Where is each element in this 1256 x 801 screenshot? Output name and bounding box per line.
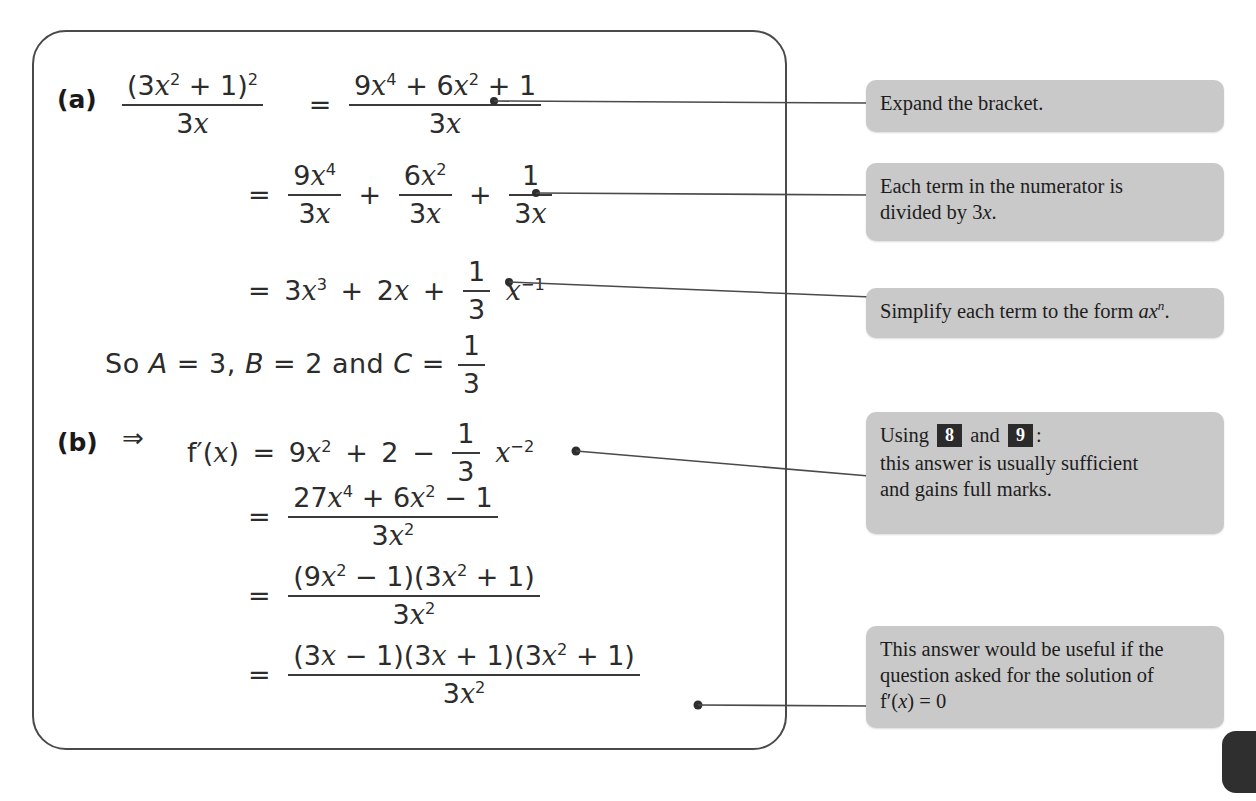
fraction-denominator: 3x bbox=[171, 109, 213, 139]
equals-sign: = bbox=[243, 659, 276, 690]
term-2x: 2x bbox=[377, 275, 409, 306]
callout-using-rules: Using 8 and 9: this answer is usually su… bbox=[866, 412, 1224, 534]
part-b-label: (b) bbox=[57, 428, 98, 457]
callout-using-label: Using bbox=[880, 424, 934, 446]
fraction-bar bbox=[399, 194, 452, 196]
callout-solution-useful: This answer would be useful if the quest… bbox=[866, 626, 1224, 728]
fraction-a2-term1: 9x4 3x bbox=[288, 161, 341, 229]
fraction-bar bbox=[288, 194, 341, 196]
callout-text: Expand the bracket. bbox=[880, 92, 1043, 114]
fraction-b2: 27x4 + 6x2 − 1 3x2 bbox=[288, 483, 497, 551]
part-a-label: (a) bbox=[57, 85, 97, 114]
fraction-denominator: 3 bbox=[458, 369, 485, 399]
fraction-bar bbox=[452, 452, 479, 454]
connector-line bbox=[536, 193, 870, 195]
callout-line-1: Each term in the numerator is bbox=[880, 174, 1210, 200]
callout-text-post: . bbox=[1164, 300, 1169, 322]
connector-line bbox=[698, 705, 871, 706]
equation-a1: (3x2 + 1)2 3x = 9x4 + 6x2 + 1 3x bbox=[118, 72, 545, 140]
function-f-prime: f′(x) bbox=[187, 437, 239, 468]
variable-x: x bbox=[1149, 300, 1158, 322]
fraction-numerator: 1 bbox=[452, 419, 479, 449]
fraction-b4: (3x − 1)(3x + 1)(3x2 + 1) 3x2 bbox=[288, 641, 640, 709]
equation-b1: f′(x) = 9x2 + 2 − 1 3 x−2 bbox=[187, 420, 534, 488]
equals-sign: = bbox=[304, 89, 337, 120]
function-f: f bbox=[880, 690, 887, 712]
plus-sign: + bbox=[336, 275, 369, 306]
connector-using bbox=[571, 444, 871, 480]
callout-line-1: Using 8 and 9: bbox=[880, 423, 1210, 449]
callout-text-pre: Simplify each term to the form bbox=[880, 300, 1138, 322]
fraction-bar bbox=[288, 674, 640, 676]
minus-sign: − bbox=[407, 437, 440, 468]
conclusion-a: So A = 3, B = 2 and C = 1 3 bbox=[105, 332, 489, 399]
connector-solution bbox=[693, 697, 873, 717]
fraction-bar bbox=[122, 104, 263, 106]
rule-badge-9[interactable]: 9 bbox=[1008, 424, 1033, 447]
fraction-denominator: 3x2 bbox=[367, 521, 420, 551]
equation-b2: = 27x4 + 6x2 − 1 3x2 bbox=[243, 484, 502, 552]
fraction-numerator: 1 bbox=[463, 257, 490, 287]
variable-x: x bbox=[983, 201, 992, 223]
equals-sign: = bbox=[248, 437, 281, 468]
plus-sign: + bbox=[464, 179, 497, 210]
equation-b4: = (3x − 1)(3x + 1)(3x2 + 1) 3x2 bbox=[243, 642, 644, 710]
fraction-denominator: 3x2 bbox=[388, 600, 441, 630]
callout-line-2: question asked for the solution of bbox=[880, 663, 1210, 689]
plus-sign: + bbox=[418, 275, 451, 306]
callout-colon: : bbox=[1036, 424, 1042, 446]
fraction-numerator: 6x2 bbox=[399, 161, 452, 191]
term-3x3: 3x3 bbox=[284, 275, 327, 306]
page-canvas: (a) (3x2 + 1)2 3x = 9x4 + 6x2 + 1 3x = 9… bbox=[0, 0, 1256, 801]
fraction-b3: (9x2 − 1)(3x2 + 1) 3x2 bbox=[288, 562, 540, 630]
fraction-numerator: (3x − 1)(3x + 1)(3x2 + 1) bbox=[288, 641, 640, 671]
connector-line bbox=[494, 101, 868, 103]
fraction-one-third: 1 3 bbox=[463, 257, 490, 325]
plus-sign: + bbox=[354, 179, 387, 210]
fraction-denominator: 3x bbox=[404, 199, 446, 229]
callout-line-3: and gains full marks. bbox=[880, 477, 1210, 503]
rule-badge-8[interactable]: 8 bbox=[937, 424, 962, 447]
connector-line bbox=[576, 451, 869, 476]
plus-sign: + bbox=[340, 437, 373, 468]
equation-b3: = (9x2 − 1)(3x2 + 1) 3x2 bbox=[243, 563, 544, 631]
equals-sign: = bbox=[243, 501, 276, 532]
callout-divide-by-3x: Each term in the numerator is divided by… bbox=[866, 163, 1224, 241]
fraction-numerator: 27x4 + 6x2 − 1 bbox=[288, 483, 497, 513]
connector-line bbox=[509, 282, 871, 297]
fraction-a1-left: (3x2 + 1)2 3x bbox=[122, 71, 263, 139]
callout-line-2: this answer is usually sufficient bbox=[880, 451, 1210, 477]
equals-sign: = bbox=[243, 275, 276, 306]
connector-simplify bbox=[505, 275, 873, 299]
fraction-numerator: 9x4 bbox=[288, 161, 341, 191]
callout-line-2: divided by 3x. bbox=[880, 200, 1210, 226]
implies-sign: ⇒ bbox=[122, 425, 144, 451]
callout-simplify-form: Simplify each term to the form axn. bbox=[866, 288, 1224, 338]
callout-line-1: This answer would be useful if the bbox=[880, 637, 1210, 663]
equals-sign: = bbox=[243, 580, 276, 611]
callout-line-2-pre: divided by 3 bbox=[880, 201, 983, 223]
callout-line-2-post: . bbox=[992, 201, 997, 223]
fraction-numerator: 1 bbox=[458, 331, 485, 361]
fraction-bar bbox=[288, 595, 540, 597]
callout-line-3: f′(x) = 0 bbox=[880, 689, 1210, 715]
fraction-a2-term2: 6x2 3x bbox=[399, 161, 452, 229]
equation-a3: = 3x3 + 2x + 1 3 x−1 bbox=[243, 258, 545, 326]
connector-divide bbox=[532, 185, 872, 205]
conclusion-text: So A = 3, B = 2 and C = bbox=[105, 348, 445, 379]
fraction-bar bbox=[463, 290, 490, 292]
equals-sign: = bbox=[243, 179, 276, 210]
fraction-denominator: 3x bbox=[293, 199, 335, 229]
fraction-numerator: (3x2 + 1)2 bbox=[122, 71, 263, 101]
fraction-denominator: 3 bbox=[463, 295, 490, 325]
fraction-one-third: 1 3 bbox=[458, 331, 485, 398]
variable-x: x bbox=[898, 690, 907, 712]
term-9x2: 9x2 bbox=[289, 437, 332, 468]
term-2: 2 bbox=[381, 437, 398, 468]
callout-expand-bracket: Expand the bracket. bbox=[866, 80, 1224, 132]
callout-and-label: and bbox=[965, 424, 1005, 446]
equals-zero: = 0 bbox=[914, 690, 946, 712]
page-edge-tab[interactable] bbox=[1222, 731, 1256, 793]
term-x-minus-2: x−2 bbox=[495, 437, 534, 468]
fraction-numerator: (9x2 − 1)(3x2 + 1) bbox=[288, 562, 540, 592]
